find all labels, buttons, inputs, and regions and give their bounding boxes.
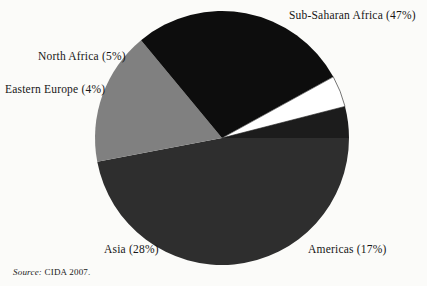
source-text: CIDA 2007.	[45, 267, 91, 277]
source-note: Source: CIDA 2007.	[13, 267, 91, 277]
pie-label-north-africa: North Africa (5%)	[38, 50, 126, 62]
pie-label-sub-saharan-africa: Sub-Saharan Africa (47%)	[289, 9, 416, 21]
pie-label-asia: Asia (28%)	[104, 243, 159, 255]
pie-label-eastern-europe: Eastern Europe (4%)	[5, 83, 105, 95]
pie-slice-group	[95, 11, 349, 265]
source-prefix: Source:	[13, 267, 42, 277]
pie-chart-figure: Sub-Saharan Africa (47%) North Africa (5…	[0, 0, 427, 286]
pie-label-americas: Americas (17%)	[308, 243, 386, 255]
